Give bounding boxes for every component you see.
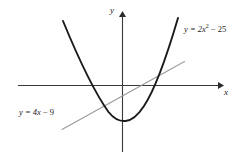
y-axis <box>119 11 126 152</box>
parabola-equation-label: y = 2x2 − 25 <box>184 25 226 34</box>
line-equation-label: y = 4x − 9 <box>19 108 54 117</box>
parabola-curve-2x2-minus-25 <box>63 18 178 121</box>
graph-figure: y x y = 2x2 − 25 y = 4x − 9 <box>0 0 241 158</box>
x-axis-label: x <box>224 88 228 97</box>
line-curve-4x-minus-9 <box>62 62 185 130</box>
x-axis <box>18 82 224 89</box>
y-axis-arrow-icon <box>119 11 126 17</box>
parabola-equation-head: y = 2x <box>184 24 206 34</box>
line-equation-tail: − 9 <box>41 107 54 117</box>
line-equation-head: y = 4x <box>19 107 41 117</box>
parabola-equation-tail: − 25 <box>209 24 227 34</box>
y-axis-label: y <box>110 6 114 15</box>
